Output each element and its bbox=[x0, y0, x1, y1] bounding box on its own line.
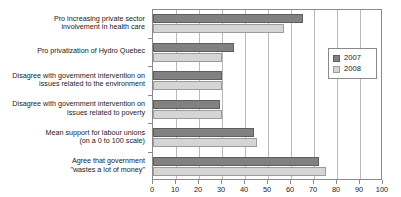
bar-2007 bbox=[153, 157, 319, 166]
plot-area bbox=[152, 9, 382, 180]
bar-2007 bbox=[153, 100, 220, 109]
x-axis-tick bbox=[267, 180, 268, 184]
category-label: Agree that government "wastes a lot of m… bbox=[0, 157, 145, 174]
bar-2008 bbox=[153, 24, 284, 33]
category-label: Mean support for labour unions (on a 0 t… bbox=[0, 129, 145, 146]
x-axis-tick bbox=[221, 180, 222, 184]
y-axis-tick bbox=[148, 152, 152, 153]
bar-2007 bbox=[153, 128, 254, 137]
x-axis-tick bbox=[313, 180, 314, 184]
x-axis-tick-label: 70 bbox=[309, 185, 317, 194]
x-axis-tick-label: 90 bbox=[355, 185, 363, 194]
x-axis-tick-label: 50 bbox=[263, 185, 271, 194]
bar-2007 bbox=[153, 71, 222, 80]
bar-2007 bbox=[153, 43, 234, 52]
legend-swatch-2008 bbox=[333, 66, 340, 73]
x-axis-tick bbox=[382, 180, 383, 184]
bar-2008 bbox=[153, 81, 222, 90]
legend-item-2008: 2008 bbox=[333, 64, 372, 74]
x-axis-tick bbox=[244, 180, 245, 184]
y-axis-tick bbox=[148, 38, 152, 39]
x-axis-tick bbox=[152, 180, 153, 184]
y-axis-tick bbox=[148, 123, 152, 124]
x-axis-tick-label: 40 bbox=[240, 185, 248, 194]
x-axis-tick-label: 30 bbox=[217, 185, 225, 194]
bar-2007 bbox=[153, 14, 303, 23]
x-axis-tick-label: 10 bbox=[171, 185, 179, 194]
category-label: Disagree with government intervention on… bbox=[0, 72, 145, 89]
bar-2008 bbox=[153, 138, 257, 147]
x-axis-tick bbox=[175, 180, 176, 184]
chart-legend: 2007 2008 bbox=[328, 48, 377, 79]
bar-group bbox=[153, 153, 381, 182]
bar-2008 bbox=[153, 53, 222, 62]
category-label: Pro increasing private sector involvemen… bbox=[0, 15, 145, 32]
legend-label-2008: 2008 bbox=[344, 65, 361, 73]
x-axis-tick-label: 80 bbox=[332, 185, 340, 194]
legend-swatch-2007 bbox=[333, 55, 340, 62]
y-axis-tick bbox=[148, 95, 152, 96]
x-axis-tick-label: 0 bbox=[150, 185, 154, 194]
bar-group bbox=[153, 96, 381, 125]
x-axis-tick bbox=[198, 180, 199, 184]
legend-item-2007: 2007 bbox=[333, 53, 372, 63]
legend-label-2007: 2007 bbox=[344, 54, 361, 62]
x-axis-tick bbox=[359, 180, 360, 184]
bar-group bbox=[153, 124, 381, 153]
category-label: Pro privatization of Hydro Quebec bbox=[0, 47, 145, 56]
y-axis-tick bbox=[148, 66, 152, 67]
x-axis-tick-label: 60 bbox=[286, 185, 294, 194]
bar-2008 bbox=[153, 167, 326, 176]
category-axis-labels: Pro increasing private sector involvemen… bbox=[0, 9, 149, 180]
bar-group bbox=[153, 10, 381, 39]
x-axis-tick bbox=[290, 180, 291, 184]
bar-2008 bbox=[153, 110, 222, 119]
x-axis-tick bbox=[336, 180, 337, 184]
category-label: Disagree with government intervention on… bbox=[0, 100, 145, 117]
x-axis-tick-label: 20 bbox=[194, 185, 202, 194]
x-axis-tick-label: 100 bbox=[376, 185, 388, 194]
bar-chart: Pro increasing private sector involvemen… bbox=[0, 0, 401, 197]
